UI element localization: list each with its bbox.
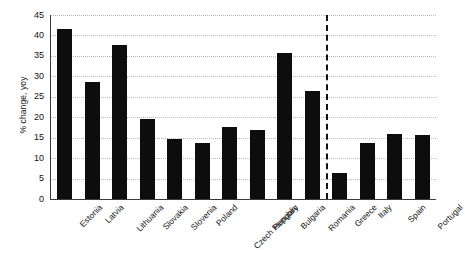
x-tick-label: Poland [215,203,239,227]
y-tick-label: 15 [34,133,44,142]
bar [195,143,210,199]
gridline [51,117,436,118]
bar [57,29,72,199]
y-axis-tick-labels: 051015202530354045 [0,0,48,264]
bar [167,139,182,199]
bar [277,53,292,199]
x-tick-label: Slovakia [162,203,190,231]
bar [415,135,430,199]
x-tick-label: Estonia [78,203,104,229]
gridline [51,179,436,180]
y-tick-label: 45 [34,11,44,20]
gridline [51,76,436,77]
bar [305,91,320,199]
bar [222,127,237,199]
gridline [51,56,436,57]
gridline [51,158,436,159]
y-tick-label: 30 [34,72,44,81]
x-tick-label: Hungary [272,203,300,231]
y-tick-label: 0 [39,195,44,204]
x-tick-label: Spain [406,203,427,224]
bar [85,82,100,199]
x-tick-label: Portugal [436,203,464,231]
y-tick-label: 10 [34,154,44,163]
x-tick-label: Lithuania [135,203,165,233]
gridline [51,35,436,36]
plot-area [50,15,436,200]
y-tick-label: 25 [34,92,44,101]
x-tick-label: Latvia [104,203,126,225]
gridline [51,97,436,98]
x-tick-label: Bulgaria [299,203,327,231]
bar [360,143,375,199]
bar [332,173,347,199]
x-tick-label: Slovenia [189,203,218,232]
group-divider-line [326,15,328,199]
y-tick-label: 20 [34,113,44,122]
x-tick-label: Greece [353,203,378,228]
x-tick-label: Czech Republic [252,203,299,250]
y-tick-label: 5 [39,174,44,183]
x-tick-label: Romania [327,203,357,233]
y-tick-label: 40 [34,31,44,40]
gridline [51,138,436,139]
x-tick-label: Italy [377,203,394,220]
bar [250,130,265,199]
bar [387,134,402,199]
bar [140,119,155,199]
y-tick-label: 35 [34,51,44,60]
gridline [51,15,436,16]
bar [112,45,127,199]
